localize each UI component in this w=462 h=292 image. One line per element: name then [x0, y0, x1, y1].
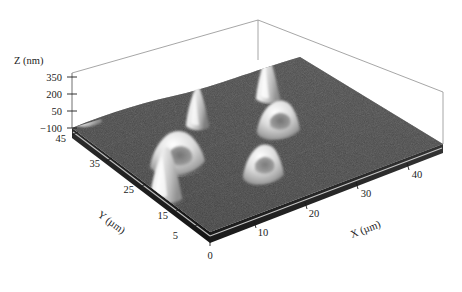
x-tick-label-0: 0	[207, 250, 212, 261]
x-tick-label-40: 40	[412, 169, 423, 180]
z-tick-label-200: 200	[46, 89, 62, 100]
z-axis-title: Z (nm)	[14, 55, 44, 67]
z-tick-label-350: 350	[46, 72, 62, 83]
y-tick-label-45: 45	[56, 133, 67, 144]
y-axis-title: Y (µm)	[95, 209, 128, 237]
z-axis: Z (nm) 350 200 50 −100	[14, 55, 77, 134]
surface-grain-overlay	[72, 57, 443, 232]
y-tick-label-5: 5	[173, 230, 178, 241]
substrate-top-surface	[72, 57, 443, 232]
y-tick-label-35: 35	[90, 158, 101, 169]
afm-surface-figure: Z (nm) 350 200 50 −100 45 35 25 15 5 Y (…	[0, 0, 462, 292]
y-tick-label-25: 25	[124, 184, 135, 195]
x-tick-label-30: 30	[361, 188, 372, 199]
x-tick-label-20: 20	[309, 208, 320, 219]
x-axis-title: X (µm)	[349, 218, 383, 241]
z-tick-label-50: 50	[52, 106, 63, 117]
y-tick-label-15: 15	[158, 210, 169, 221]
surface-plot-canvas: Z (nm) 350 200 50 −100 45 35 25 15 5 Y (…	[0, 0, 462, 292]
x-tick-label-10: 10	[258, 227, 269, 238]
